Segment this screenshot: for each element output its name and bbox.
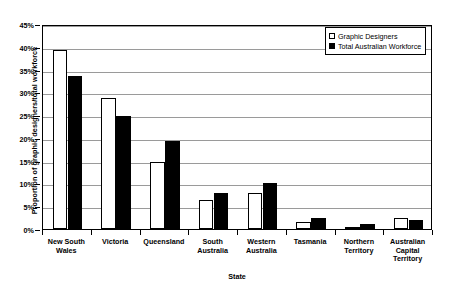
plot-area (42, 25, 432, 230)
y-axis-tick-label: 40% (20, 43, 34, 52)
y-axis-tick-mark (35, 230, 40, 231)
bar-total-australian-workforce (214, 193, 229, 229)
bar-total-australian-workforce (68, 76, 83, 229)
legend-item-graphic-designers: Graphic Designers (329, 31, 421, 41)
bar-series-container (43, 26, 431, 229)
bar-total-australian-workforce (360, 224, 375, 229)
y-axis-tick-label: 45% (20, 21, 34, 30)
chart-legend: Graphic Designers Total Australian Workf… (325, 27, 426, 55)
y-axis-tick-labels: 0%5%10%15%20%25%30%35%40%45% (0, 0, 40, 293)
x-axis-tick-mark (432, 230, 433, 235)
bar-total-australian-workforce (409, 220, 424, 229)
x-axis-category-label: NorthernTerritory (335, 238, 384, 255)
y-axis-tick-label: 30% (20, 89, 34, 98)
y-axis-tick-label: 15% (20, 157, 34, 166)
y-axis-tick-mark (35, 25, 40, 26)
y-axis-tick-label: 35% (20, 66, 34, 75)
y-axis-tick-mark (35, 93, 40, 94)
x-axis-category-label: AustralianCapitalTerritory (383, 238, 432, 264)
x-axis-title: State (42, 272, 432, 281)
y-axis-tick-label: 20% (20, 134, 34, 143)
legend-label-total-australian-workforce: Total Australian Workforce (338, 42, 421, 51)
x-axis-tick-mark (383, 230, 384, 235)
x-axis-category-label: WesternAustralia (237, 238, 286, 255)
y-axis-tick-mark (35, 207, 40, 208)
x-axis-tick-mark (91, 230, 92, 235)
y-axis-tick-mark (35, 184, 40, 185)
bar-total-australian-workforce (311, 218, 326, 229)
x-axis-category-label: Tasmania (286, 238, 335, 247)
x-axis-tick-mark (42, 230, 43, 235)
x-axis-ticks (42, 230, 432, 236)
bar-graphic-designers (394, 218, 409, 229)
y-axis-tick-mark (35, 48, 40, 49)
legend-label-graphic-designers: Graphic Designers (338, 32, 398, 41)
x-axis-tick-mark (140, 230, 141, 235)
x-axis-category-label: New SouthWales (42, 238, 91, 255)
bar-graphic-designers (101, 98, 116, 229)
y-axis-tick-label: 0% (24, 226, 34, 235)
y-axis-tick-mark (35, 139, 40, 140)
bar-total-australian-workforce (116, 116, 131, 229)
bar-graphic-designers (199, 200, 214, 229)
legend-swatch-dark-icon (329, 43, 335, 49)
bar-graphic-designers (248, 193, 263, 229)
legend-swatch-light-icon (329, 33, 335, 39)
y-axis-tick-mark (35, 71, 40, 72)
y-axis-tick-label: 5% (24, 203, 34, 212)
bar-graphic-designers (150, 162, 165, 229)
x-axis-tick-mark (188, 230, 189, 235)
x-axis-tick-mark (286, 230, 287, 235)
y-axis-tick-mark (35, 162, 40, 163)
y-axis-tick-label: 25% (20, 112, 34, 121)
bar-total-australian-workforce (263, 183, 278, 229)
x-axis-tick-mark (335, 230, 336, 235)
bar-graphic-designers (296, 222, 311, 229)
x-axis-tick-mark (237, 230, 238, 235)
x-axis-category-label: SouthAustralia (188, 238, 237, 255)
bar-graphic-designers (345, 227, 360, 229)
y-axis-tick-mark (35, 116, 40, 117)
legend-item-total-australian-workforce: Total Australian Workforce (329, 41, 421, 51)
bar-chart: Proportion of graphic designers/total wo… (0, 0, 450, 293)
y-axis-tick-label: 10% (20, 180, 34, 189)
x-axis-category-label: Victoria (91, 238, 140, 247)
bar-graphic-designers (53, 50, 68, 229)
x-axis-category-label: Queensland (140, 238, 189, 247)
bar-total-australian-workforce (165, 141, 180, 229)
